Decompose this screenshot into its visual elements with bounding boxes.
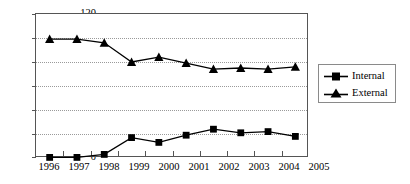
line-chart: 120 100 80 60 40 20 0 1996 1997 1998 199… [0,0,410,184]
square-marker [46,154,53,161]
series-internal [46,126,299,161]
x-axis-tick-label: 1996 [32,162,66,173]
square-marker [210,126,217,133]
square-marker [265,128,272,135]
square-marker [101,151,108,158]
legend: Internal External [318,64,396,103]
x-axis-tick-label: 1998 [92,162,126,173]
x-axis-tick-label: 2000 [152,162,186,173]
square-marker [155,139,162,146]
square-marker [128,134,135,141]
series-line [50,39,296,69]
plot-area [35,13,308,157]
square-marker [292,133,299,140]
square-marker [74,154,81,161]
legend-label: Internal [349,71,385,82]
series-line [50,129,296,157]
square-marker-icon [323,70,349,83]
triangle-marker-icon [323,87,349,100]
square-marker [183,132,190,139]
series-layer [36,14,309,158]
legend-item-internal: Internal [323,68,391,85]
series-external [45,35,300,74]
x-axis-tick-label: 2003 [242,162,276,173]
x-axis-tick-label: 1997 [62,162,96,173]
x-axis-tick-label: 2005 [302,162,336,173]
x-axis-tick-label: 2002 [212,162,246,173]
legend-item-external: External [323,85,391,102]
x-axis-tick-label: 1999 [122,162,156,173]
legend-label: External [349,88,388,99]
x-axis-tick-label: 2004 [272,162,306,173]
square-marker [237,129,244,136]
x-axis-tick-label: 2001 [182,162,216,173]
triangle-marker [154,53,163,62]
